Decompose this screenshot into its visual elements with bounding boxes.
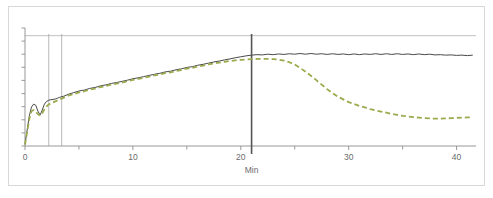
figure-root: 010203040Min xyxy=(0,0,493,198)
x-axis-title: Min xyxy=(245,165,259,175)
x-axis-tick-label-2: 20 xyxy=(236,152,246,162)
x-axis-tick-label-3: 30 xyxy=(344,152,354,162)
x-axis-tick-label-0: 0 xyxy=(23,152,28,162)
chart-canvas: 010203040Min xyxy=(0,0,493,198)
x-axis-tick-label-4: 40 xyxy=(452,152,462,162)
series-solid-trace xyxy=(25,53,473,144)
line-chart: 010203040Min xyxy=(0,0,493,198)
x-axis-tick-label-1: 10 xyxy=(128,152,138,162)
series-dashed-trace xyxy=(25,59,473,145)
